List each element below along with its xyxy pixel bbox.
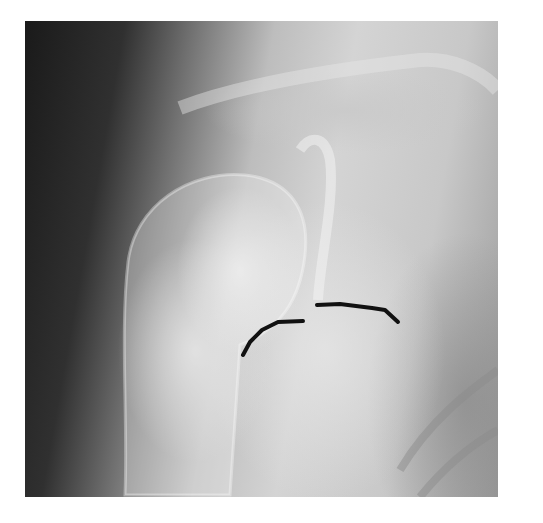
xray-image [25,21,498,497]
clavicle-shape [180,60,498,108]
rib-shape [400,370,498,470]
xray-overlay [25,21,498,497]
marking-right-curve [317,304,398,322]
humerus-shape [124,175,305,495]
rib-shape [420,430,498,497]
glenoid-shape [300,140,331,300]
